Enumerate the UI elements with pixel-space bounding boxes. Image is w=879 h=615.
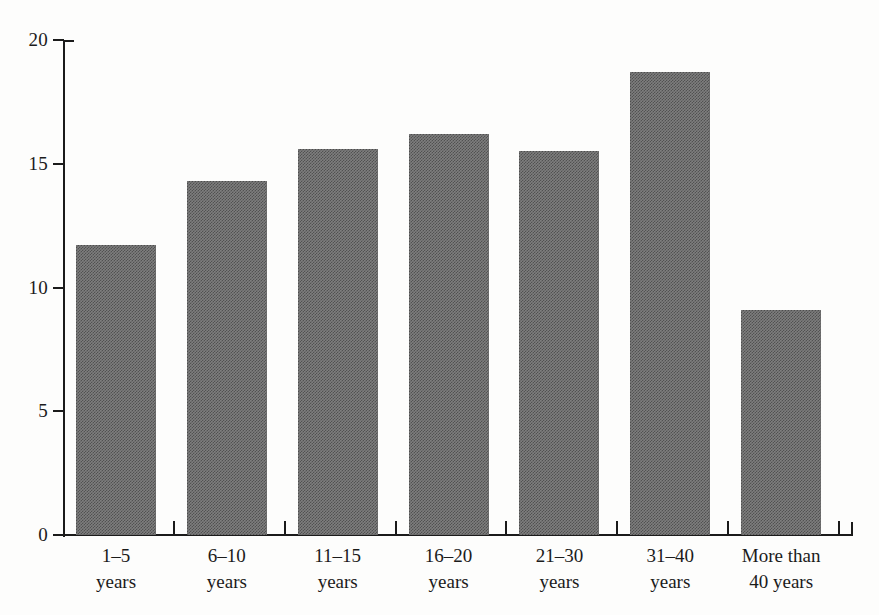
x-axis-label-line2: 40 years bbox=[711, 569, 851, 595]
plot-area bbox=[63, 40, 852, 535]
bar bbox=[76, 245, 156, 535]
bar bbox=[630, 72, 710, 535]
y-axis-tick-label: 0 bbox=[2, 525, 48, 544]
x-axis-label: More than40 years bbox=[711, 543, 851, 595]
y-axis-tick-label: 15 bbox=[2, 154, 48, 173]
y-axis-labels: 05101520 bbox=[0, 0, 48, 615]
bar bbox=[298, 149, 378, 535]
bar bbox=[741, 310, 821, 535]
x-axis-label-line1: More than bbox=[711, 543, 851, 569]
y-axis-tick-label: 10 bbox=[2, 278, 48, 297]
y-axis-tick-label: 5 bbox=[2, 401, 48, 420]
bar bbox=[187, 181, 267, 535]
bar bbox=[409, 134, 489, 535]
x-axis-labels: 1–5years6–10years11–15years16–20years21–… bbox=[0, 543, 879, 615]
y-axis-tick-label: 20 bbox=[2, 30, 48, 49]
bar bbox=[519, 151, 599, 535]
bar-chart: 05101520 1–5years6–10years11–15years16–2… bbox=[0, 0, 879, 615]
